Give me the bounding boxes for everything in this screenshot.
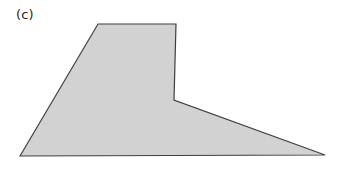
figure-panel: (c) [0, 0, 345, 177]
polygon-shape [20, 24, 325, 156]
shape-canvas [0, 0, 345, 177]
